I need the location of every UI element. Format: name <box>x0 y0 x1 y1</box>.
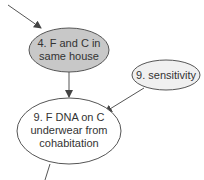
node-4-label-line-1: 4. F and C in <box>29 37 109 50</box>
node-sensitivity-label: 9. sensitivity <box>132 69 200 82</box>
node-9-label-line-1: 9. F DNA on C <box>19 111 119 124</box>
node-9-label-line-2: underwear from <box>19 124 119 137</box>
node-9-label: 9. F DNA on C underwear from cohabitatio… <box>19 111 119 150</box>
edge-sensitivity-to-node-9 <box>105 88 144 112</box>
edge-node-9-outgoing <box>45 164 50 180</box>
node-9-label-line-3: cohabitation <box>19 137 119 150</box>
diagram-canvas <box>0 0 204 180</box>
node-4-label-line-2: same house <box>29 50 109 63</box>
node-sensitivity-label-line-1: 9. sensitivity <box>132 69 200 82</box>
node-4-label: 4. F and C in same house <box>29 37 109 63</box>
edge-incoming-to-node-4 <box>8 5 41 28</box>
